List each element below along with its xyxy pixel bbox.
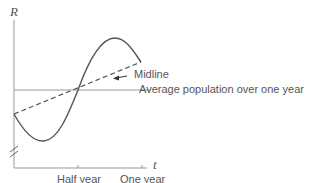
arrow-left-icon	[113, 76, 127, 81]
tick-label-half-year: Half year	[57, 174, 101, 183]
average-label: Average population over one year	[139, 84, 304, 95]
midline-label: Midline	[134, 69, 169, 80]
tick-label-one-year: One year	[120, 174, 165, 183]
x-axis-label: t	[153, 158, 157, 171]
midline	[14, 62, 141, 114]
y-axis-label: R	[10, 5, 18, 18]
